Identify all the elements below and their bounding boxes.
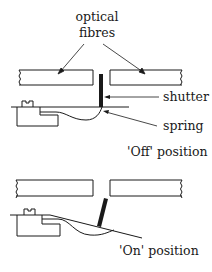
left-optical-fibre-on xyxy=(16,180,93,198)
shutter-label: shutter xyxy=(163,89,209,104)
spring-label: spring xyxy=(163,118,203,133)
optical-switch-diagram: optical fibres shutter xyxy=(0,0,212,272)
left-optical-fibre xyxy=(19,70,93,85)
mounting-block-on xyxy=(17,209,60,236)
on-position-diagram: 'On' position xyxy=(10,180,199,258)
shutter-on xyxy=(97,198,108,227)
right-optical-fibre-on xyxy=(110,180,182,198)
on-position-label: 'On' position xyxy=(119,243,199,258)
right-optical-fibre xyxy=(110,70,182,85)
spring-off xyxy=(40,107,102,120)
off-position-diagram: shutter spring 'Off' position xyxy=(11,70,209,159)
spring-on xyxy=(42,219,114,235)
optical-label: optical xyxy=(76,9,119,24)
fibres-label: fibres xyxy=(79,25,115,40)
base-plate-on xyxy=(10,215,142,238)
shutter-off xyxy=(99,74,103,107)
off-position-label: 'Off' position xyxy=(127,144,208,159)
mounting-block-off xyxy=(17,101,58,126)
